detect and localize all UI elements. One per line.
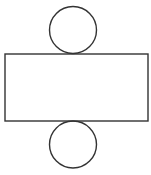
lateral-rectangle: [5, 54, 148, 121]
bottom-circle: [50, 121, 97, 168]
cylinder-net-diagram: [0, 0, 151, 175]
top-circle: [50, 7, 97, 54]
